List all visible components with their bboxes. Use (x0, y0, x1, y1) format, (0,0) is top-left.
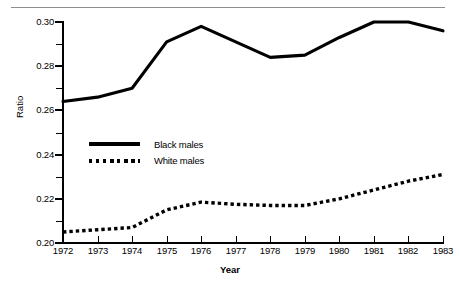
series-line-white-males (63, 174, 443, 231)
x-axis-tick (443, 236, 444, 243)
legend-item[interactable]: White males (89, 153, 269, 169)
legend-item[interactable]: Black males (89, 137, 269, 153)
y-axis-title: Ratio (4, 74, 15, 96)
x-axis-tick (98, 236, 99, 243)
x-axis-tick (167, 236, 168, 243)
x-axis-tick (305, 236, 306, 243)
y-axis-title-text: Ratio (14, 96, 25, 118)
x-axis-tick-label: 1976 (181, 246, 221, 256)
y-axis-tick-minor (56, 44, 63, 45)
x-axis-line (62, 242, 444, 244)
y-axis-tick-label: 0.22 (20, 194, 54, 204)
x-axis-tick (63, 236, 64, 243)
top-rule-divider (11, 7, 445, 8)
y-axis-tick-major (55, 65, 63, 67)
x-axis-tick (236, 236, 237, 243)
legend-swatch-dotted-line-icon (89, 159, 140, 163)
chart-figure: 0.200.220.240.260.280.30 197219731974197… (0, 0, 460, 289)
y-axis-tick-major (55, 154, 63, 156)
series-line-black-males (63, 22, 443, 102)
x-axis-tick-label: 1980 (319, 246, 359, 256)
y-axis-tick-minor (56, 221, 63, 222)
x-axis-tick (408, 236, 409, 243)
legend-swatch-solid-line-icon (89, 142, 140, 146)
y-axis-tick-label: 0.28 (20, 61, 54, 71)
y-axis-tick-major (55, 21, 63, 23)
x-axis-tick-label: 1983 (423, 246, 460, 256)
chart-legend: Black malesWhite males (89, 137, 269, 169)
y-axis-tick-label: 0.24 (20, 150, 54, 160)
y-axis-tick-label: 0.26 (20, 105, 54, 115)
x-axis-tick-label: 1974 (112, 246, 152, 256)
y-axis-tick-minor (56, 177, 63, 178)
x-axis-tick-label: 1972 (43, 246, 83, 256)
x-axis-tick-label: 1982 (388, 246, 428, 256)
x-axis-tick (270, 236, 271, 243)
y-axis-tick-major (55, 198, 63, 200)
legend-label: White males (154, 153, 204, 169)
y-axis-tick-minor (56, 88, 63, 89)
x-axis-title: Year (0, 264, 460, 275)
x-axis-tick (374, 236, 375, 243)
y-axis-tick-major (55, 242, 63, 244)
y-axis-tick-label: 0.30 (20, 17, 54, 27)
x-axis-tick (201, 236, 202, 243)
y-axis-tick-minor (56, 133, 63, 134)
x-axis-tick (339, 236, 340, 243)
y-axis-tick-major (55, 109, 63, 111)
x-axis-tick (132, 236, 133, 243)
legend-label: Black males (154, 137, 203, 153)
x-axis-tick-label: 1978 (250, 246, 290, 256)
